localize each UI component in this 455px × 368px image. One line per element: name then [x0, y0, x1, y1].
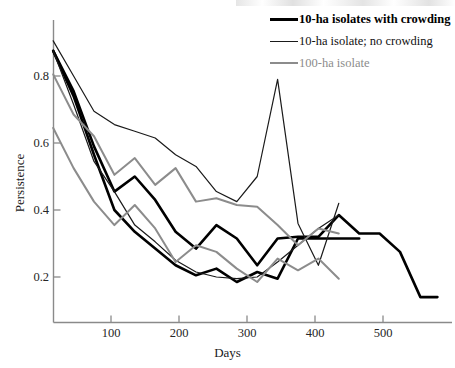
series-line: [53, 51, 437, 297]
data-series-layer: [53, 41, 437, 297]
x-tick-label: 400: [306, 326, 325, 341]
x-tick-label: 100: [102, 326, 121, 341]
legend-item-100ha[interactable]: 100-ha isolate: [270, 53, 455, 73]
chart-figure: 0.20.40.60.8 100200300400500 Persistence…: [0, 0, 455, 368]
series-line: [53, 51, 359, 282]
legend-item-label: 10-ha isolate; no crowding: [298, 34, 433, 49]
legend-line-swatch: [270, 41, 298, 42]
x-axis-title: Days: [0, 345, 455, 361]
legend-item-10ha-crowding[interactable]: 10-ha isolates with crowding: [270, 9, 455, 29]
x-tick-label: 500: [374, 326, 393, 341]
chart-legend: 10-ha isolates with crowding 10-ha isola…: [270, 9, 455, 75]
x-tick-label: 200: [170, 326, 189, 341]
y-tick-label: 0.2: [22, 270, 49, 285]
legend-item-10ha-no-crowding[interactable]: 10-ha isolate; no crowding: [270, 31, 455, 51]
x-tick-label: 300: [238, 326, 257, 341]
y-tick-label: 0.8: [22, 69, 49, 84]
y-axis-title: Persistence: [12, 123, 28, 243]
legend-item-label: 100-ha isolate: [298, 56, 369, 71]
legend-line-swatch: [270, 18, 298, 21]
legend-line-swatch: [270, 62, 298, 64]
legend-item-label: 10-ha isolates with crowding: [298, 12, 451, 27]
